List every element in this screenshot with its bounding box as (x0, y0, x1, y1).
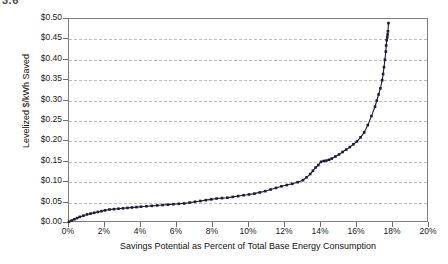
data-point-marker (387, 22, 390, 25)
x-tick-label: 2% (89, 226, 119, 236)
data-point-marker (374, 105, 377, 108)
data-point-marker (345, 148, 348, 151)
data-point-marker (331, 157, 334, 160)
data-point-marker (205, 199, 208, 202)
data-point-marker (349, 146, 352, 149)
data-point-marker (135, 206, 138, 209)
y-tick-label: $0.05 (18, 197, 62, 206)
y-tick-label: $0.50 (18, 13, 62, 22)
data-point-marker (226, 196, 229, 199)
data-point-marker (76, 217, 79, 220)
x-tick-label: 16% (341, 226, 371, 236)
data-point-marker (385, 44, 388, 47)
x-tick-label: 20% (413, 226, 443, 236)
data-point-marker (253, 192, 256, 195)
data-point-marker (73, 218, 76, 221)
data-point-marker (210, 198, 213, 201)
data-point-marker (291, 183, 294, 186)
data-point-marker (131, 206, 134, 209)
data-point-marker (113, 208, 116, 211)
data-point-marker (302, 179, 305, 182)
data-point-marker (86, 213, 89, 216)
data-point-marker (359, 136, 362, 139)
data-point-marker (385, 50, 388, 53)
data-point-marker (314, 166, 317, 169)
data-point-marker (122, 207, 125, 210)
data-point-marker (381, 79, 384, 82)
data-point-marker (215, 197, 218, 200)
x-tick-label: 12% (269, 226, 299, 236)
data-point-marker (188, 201, 191, 204)
y-tick-label: $0.00 (18, 217, 62, 226)
x-tick-label: 8% (197, 226, 227, 236)
data-point-marker (194, 200, 197, 203)
x-tick-label: 18% (377, 226, 407, 236)
data-point-marker (296, 181, 299, 184)
data-point-marker (221, 197, 224, 200)
data-series-line (69, 19, 429, 223)
data-point-marker (178, 203, 181, 206)
data-point-marker (156, 204, 159, 207)
data-point-marker (385, 39, 388, 42)
y-tick-label: $0.25 (18, 115, 62, 124)
data-point-marker (199, 200, 202, 203)
y-tick-label: $0.30 (18, 95, 62, 104)
y-tick-label: $0.20 (18, 135, 62, 144)
data-point-marker (356, 140, 359, 143)
data-point-marker (145, 205, 148, 208)
data-point-marker (269, 188, 272, 191)
y-tick-label: $0.10 (18, 176, 62, 185)
data-point-marker (352, 143, 355, 146)
data-point-marker (242, 194, 245, 197)
data-point-marker (312, 169, 315, 172)
data-point-marker (317, 164, 320, 167)
data-point-marker (325, 159, 328, 162)
data-point-marker (305, 176, 308, 179)
data-point-marker (232, 196, 235, 199)
data-point-marker (264, 190, 267, 193)
data-point-marker (341, 151, 344, 154)
plot-area (68, 18, 428, 222)
data-point-marker (320, 161, 323, 164)
data-point-marker (334, 155, 337, 158)
data-point-marker (183, 202, 186, 205)
data-point-marker (161, 204, 164, 207)
data-point-marker (383, 66, 386, 69)
y-tick-label: $0.15 (18, 156, 62, 165)
data-point-marker (384, 59, 387, 62)
x-tick-label: 10% (233, 226, 263, 236)
data-point-marker (382, 73, 385, 76)
data-point-marker (387, 30, 390, 33)
data-point-marker (338, 153, 341, 156)
data-point-marker (376, 99, 379, 102)
data-point-marker (68, 220, 71, 223)
data-point-marker (309, 173, 312, 176)
data-point-marker (275, 187, 278, 190)
data-point-marker (386, 36, 389, 39)
chart-page: 3.6 Levelized $/kWh Saved Savings Potent… (0, 0, 448, 264)
data-point-marker (248, 193, 251, 196)
data-point-marker (117, 207, 120, 210)
data-point-marker (286, 184, 289, 187)
data-point-marker (377, 93, 380, 96)
data-point-marker (97, 211, 100, 214)
data-point-marker (322, 160, 325, 163)
data-point-marker (280, 185, 283, 188)
data-point-marker (140, 205, 143, 208)
data-point-marker (126, 207, 129, 210)
data-point-marker (100, 210, 103, 213)
data-point-marker (370, 115, 373, 118)
x-tick-label: 14% (305, 226, 335, 236)
data-point-marker (70, 219, 73, 222)
data-point-marker (386, 33, 389, 36)
data-point-marker (89, 212, 92, 215)
data-point-marker (93, 212, 96, 215)
data-point-marker (237, 195, 240, 198)
data-point-marker (167, 203, 170, 206)
supply-curve-chart: Levelized $/kWh Saved Savings Potential … (0, 0, 448, 264)
data-point-marker (363, 131, 366, 134)
x-axis-title: Savings Potential as Percent of Total Ba… (68, 241, 428, 251)
data-point-marker (259, 191, 262, 194)
y-tick-label: $0.35 (18, 74, 62, 83)
data-point-marker (328, 158, 331, 161)
